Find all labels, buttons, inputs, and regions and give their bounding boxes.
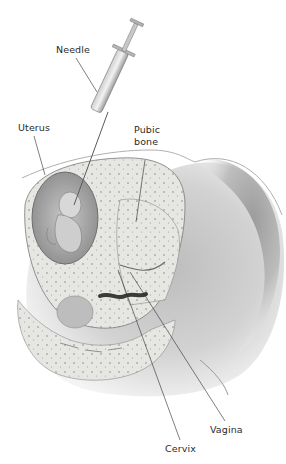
cervix-label: Cervix (165, 443, 196, 454)
amniocentesis-diagram: Needle Uterus Pubic bone Vagina Cervix (0, 0, 286, 464)
needle-label: Needle (56, 44, 90, 55)
vagina-label: Vagina (210, 424, 243, 435)
uterus-leader-line (34, 136, 45, 175)
pubic-bone-label-line1: Pubic (134, 124, 160, 135)
uterus-label: Uterus (18, 122, 50, 133)
anatomy-illustration (0, 0, 286, 464)
pubic-bone-label-line2: bone (134, 136, 158, 147)
needle-leader-line (76, 58, 97, 92)
